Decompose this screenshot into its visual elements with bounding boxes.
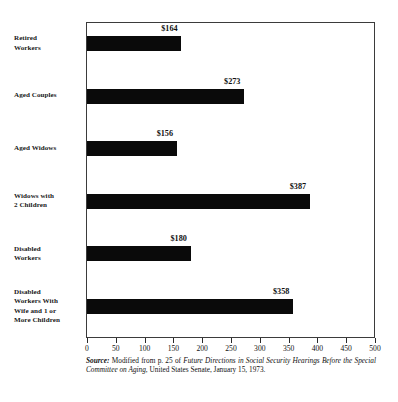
x-tick: [145, 338, 146, 343]
bars-layer: $164$273$156$387$180$358: [87, 22, 375, 338]
category-label-column: RetiredWorkersAged CouplesAged WidowsWid…: [0, 0, 86, 340]
x-tick-label: 0: [85, 344, 89, 354]
bar-value-label: $358: [273, 286, 289, 297]
x-tick-label: 300: [254, 344, 265, 354]
bar: [87, 299, 293, 314]
category-label-line: Aged Widows: [14, 144, 86, 153]
x-tick: [317, 338, 318, 343]
x-tick-label: 200: [196, 344, 207, 354]
x-tick: [202, 338, 203, 343]
category-label-line: Workers: [14, 44, 86, 53]
x-tick-label: 400: [312, 344, 323, 354]
x-tick-label: 450: [340, 344, 351, 354]
bar: [87, 89, 244, 104]
bar-group: $180: [87, 233, 375, 263]
category-label-line: Widows with: [14, 192, 86, 201]
x-tick: [375, 338, 376, 343]
bar-group: $358: [87, 286, 375, 316]
bar: [87, 36, 181, 51]
bar: [87, 141, 177, 156]
category-label: DisabledWorkers: [14, 245, 86, 264]
x-tick: [260, 338, 261, 343]
x-tick: [346, 338, 347, 343]
x-tick-label: 100: [139, 344, 150, 354]
bar: [87, 246, 191, 261]
category-label-line: 2 Children: [14, 201, 86, 210]
source-note-suffix: , United States Senate, January 15, 1973…: [146, 365, 266, 374]
category-label: DisabledWorkers WithWife and 1 orMore Ch…: [14, 288, 86, 326]
bar-group: $387: [87, 181, 375, 211]
category-label: Widows with2 Children: [14, 192, 86, 211]
category-label-line: Disabled: [14, 245, 86, 254]
bar-value-label: $273: [224, 76, 240, 87]
category-label: Aged Widows: [14, 144, 86, 153]
bar-value-label: $180: [170, 233, 186, 244]
category-label-line: Disabled: [14, 288, 86, 297]
bar-value-label: $387: [290, 181, 306, 192]
x-tick-label: 150: [168, 344, 179, 354]
category-label: RetiredWorkers: [14, 34, 86, 53]
bar-chart-figure: RetiredWorkersAged CouplesAged WidowsWid…: [0, 0, 398, 402]
category-label-line: Workers: [14, 254, 86, 263]
x-tick: [173, 338, 174, 343]
bar-value-label: $156: [157, 128, 173, 139]
category-label-line: Wife and 1 or: [14, 307, 86, 316]
bar-group: $164: [87, 23, 375, 53]
source-note: Source: Modified from p. 25 of Future Di…: [86, 357, 376, 374]
category-label-line: Aged Couples: [14, 91, 86, 100]
bar-group: $156: [87, 128, 375, 158]
category-label-line: Workers With: [14, 297, 86, 306]
category-label: Aged Couples: [14, 91, 86, 100]
x-tick: [289, 338, 290, 343]
x-tick-label: 50: [112, 344, 120, 354]
x-tick-label: 350: [283, 344, 294, 354]
x-tick: [116, 338, 117, 343]
bar-value-label: $164: [161, 23, 177, 34]
x-tick-label: 250: [225, 344, 236, 354]
x-tick: [231, 338, 232, 343]
x-tick: [87, 338, 88, 343]
bar: [87, 194, 310, 209]
category-label-line: More Children: [14, 316, 86, 325]
x-tick-label: 500: [369, 344, 380, 354]
bar-group: $273: [87, 76, 375, 106]
category-label-line: Retired: [14, 34, 86, 43]
